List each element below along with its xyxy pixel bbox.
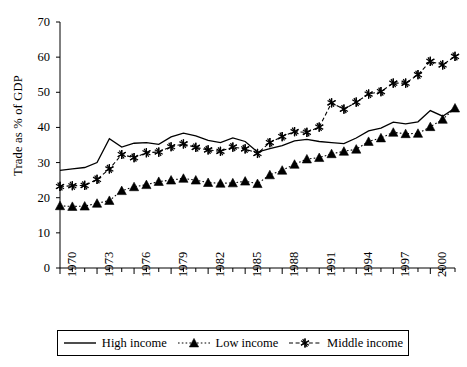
y-axis-tick-label: 0 — [22, 262, 50, 274]
legend-item: Middle income — [288, 336, 403, 351]
x-axis-tick-label: 1994 — [361, 252, 376, 277]
series-line — [60, 56, 455, 186]
chart-legend: High incomeLow incomeMiddle income — [57, 330, 409, 356]
x-axis-tick-label: 1973 — [102, 252, 117, 277]
y-axis-tick-label: 10 — [22, 227, 50, 239]
y-axis-tick-label: 70 — [22, 16, 50, 28]
asterisk-marker-key — [288, 336, 322, 350]
triangle-marker-key — [177, 336, 211, 350]
x-axis-tick-label: 1985 — [250, 252, 265, 277]
legend-label: High income — [102, 336, 167, 351]
y-axis-ticks — [56, 22, 60, 268]
x-axis-tick-label: 1991 — [324, 252, 339, 277]
y-axis-tick-label: 60 — [22, 51, 50, 63]
y-axis-tick-label: 30 — [22, 157, 50, 169]
x-axis-tick-label: 1997 — [398, 252, 413, 277]
solid-line-key — [63, 336, 97, 350]
series-high-income — [60, 108, 455, 170]
y-axis-tick-label: 50 — [22, 86, 50, 98]
series-line — [60, 108, 455, 170]
legend-item: Low income — [177, 336, 279, 351]
x-axis-tick-label: 1976 — [139, 252, 154, 277]
x-axis-tick-label: 1970 — [65, 252, 80, 277]
x-axis-tick-label: 1982 — [213, 252, 228, 277]
series-middle-income — [56, 52, 459, 191]
series-markers — [56, 52, 459, 191]
x-axis-tick-label: 1979 — [176, 252, 191, 277]
legend-label: Middle income — [327, 336, 403, 351]
legend-label: Low income — [216, 336, 279, 351]
y-axis-tick-label: 20 — [22, 192, 50, 204]
x-axis-tick-label: 2000 — [435, 252, 450, 277]
y-axis-tick-label: 40 — [22, 121, 50, 133]
legend-item: High income — [63, 336, 167, 351]
x-axis-tick-label: 1988 — [287, 252, 302, 277]
chart-figure: Trade as % of GDP 010203040506070 197019… — [0, 0, 467, 367]
